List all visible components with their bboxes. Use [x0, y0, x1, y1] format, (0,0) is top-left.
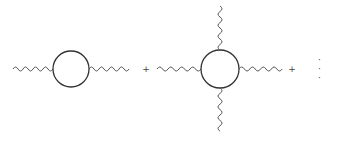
term-two-point-loop	[13, 51, 129, 87]
wavy-line-left	[157, 67, 201, 71]
feynman-diagram-canvas	[0, 0, 348, 141]
wavy-line-bottom	[218, 88, 222, 131]
wavy-line-left	[13, 67, 53, 71]
wavy-line-top	[218, 6, 222, 50]
loop-circle	[201, 50, 239, 88]
wavy-line-right	[239, 67, 282, 71]
plus-operator: +	[288, 65, 296, 74]
term-four-point-loop	[157, 6, 282, 131]
loop-circle	[53, 51, 89, 87]
ellipsis: · · ·	[318, 56, 338, 83]
plus-operator: +	[142, 65, 150, 74]
wavy-line-right	[89, 67, 129, 71]
